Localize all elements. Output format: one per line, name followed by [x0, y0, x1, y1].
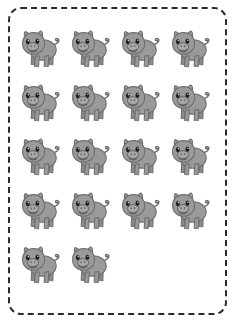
pig-eye-left	[76, 39, 80, 44]
pig-illustration	[18, 186, 62, 233]
pig-illustration	[68, 24, 112, 71]
worksheet-page: Eighteen gray cartoon pigs arranged in a…	[0, 0, 236, 323]
pig-nostril-right	[84, 99, 86, 101]
pig-item	[18, 240, 62, 287]
pig-nostril-left	[130, 45, 132, 47]
pig-grid	[18, 24, 218, 287]
pig-nostril-right	[184, 153, 186, 155]
pig-eye-right	[186, 93, 190, 98]
pig-nostril-left	[30, 99, 32, 101]
pig-item	[68, 186, 112, 233]
pig-eye-left	[76, 147, 80, 152]
pig-eye-right	[136, 93, 140, 98]
pig-row	[18, 186, 218, 233]
pig-illustration	[168, 132, 212, 179]
pig-nostril-left	[30, 207, 32, 209]
image-alt-text: Eighteen gray cartoon pigs arranged in a…	[0, 0, 1, 1]
pig-illustration	[118, 186, 162, 233]
pig-eye-left	[76, 201, 80, 206]
pig-nostril-right	[184, 99, 186, 101]
pig-item	[118, 132, 162, 179]
pig-row	[18, 78, 218, 125]
pig-illustration	[168, 186, 212, 233]
pig-eye-left	[26, 201, 30, 206]
pig-illustration	[68, 186, 112, 233]
pig-item	[68, 132, 112, 179]
pig-eye-right	[36, 255, 40, 260]
pig-row	[18, 240, 218, 287]
pig-nostril-left	[180, 207, 182, 209]
pig-eye-right	[86, 93, 90, 98]
pig-eye-right	[36, 39, 40, 44]
pig-nostril-left	[180, 45, 182, 47]
pig-eye-right	[36, 147, 40, 152]
pig-item	[68, 240, 112, 287]
pig-eye-right	[36, 201, 40, 206]
pig-eye-left	[26, 255, 30, 260]
pig-nostril-left	[130, 153, 132, 155]
pig-item	[168, 186, 212, 233]
pig-eye-right	[36, 93, 40, 98]
pig-eye-right	[86, 201, 90, 206]
pig-nostril-left	[30, 153, 32, 155]
pig-item	[18, 132, 62, 179]
pig-nostril-left	[180, 153, 182, 155]
pig-eye-right	[136, 147, 140, 152]
pig-eye-left	[126, 201, 130, 206]
pig-eye-right	[136, 201, 140, 206]
pig-eye-left	[26, 93, 30, 98]
pig-eye-right	[186, 147, 190, 152]
pig-item	[68, 78, 112, 125]
pig-illustration	[118, 78, 162, 125]
pig-nostril-left	[130, 207, 132, 209]
pig-nostril-right	[84, 153, 86, 155]
pig-nostril-left	[30, 45, 32, 47]
pig-item	[168, 132, 212, 179]
pig-eye-right	[136, 39, 140, 44]
pig-nostril-right	[34, 207, 36, 209]
pig-eye-right	[86, 147, 90, 152]
pig-nostril-right	[184, 207, 186, 209]
pig-nostril-right	[34, 261, 36, 263]
pig-nostril-right	[134, 153, 136, 155]
pig-nostril-right	[84, 45, 86, 47]
pig-eye-left	[26, 147, 30, 152]
pig-eye-left	[76, 255, 80, 260]
pig-illustration	[168, 78, 212, 125]
pig-nostril-right	[134, 45, 136, 47]
pig-item	[18, 186, 62, 233]
pig-nostril-right	[34, 45, 36, 47]
pig-item	[118, 78, 162, 125]
pig-illustration	[18, 24, 62, 71]
pig-illustration	[68, 78, 112, 125]
pig-item	[18, 78, 62, 125]
pig-item	[118, 186, 162, 233]
pig-illustration	[68, 132, 112, 179]
pig-nostril-left	[80, 207, 82, 209]
pig-nostril-right	[34, 153, 36, 155]
pig-nostril-left	[180, 99, 182, 101]
pig-row	[18, 132, 218, 179]
pig-eye-left	[126, 39, 130, 44]
pig-eye-left	[176, 39, 180, 44]
pig-nostril-right	[134, 207, 136, 209]
pig-eye-left	[176, 147, 180, 152]
pig-eye-left	[176, 93, 180, 98]
pig-nostril-right	[184, 45, 186, 47]
pig-nostril-left	[80, 153, 82, 155]
pig-illustration	[18, 78, 62, 125]
pig-illustration	[168, 24, 212, 71]
pig-eye-left	[126, 93, 130, 98]
pig-illustration	[118, 132, 162, 179]
pig-item	[168, 24, 212, 71]
pig-item	[68, 24, 112, 71]
pig-eye-right	[186, 39, 190, 44]
pig-nostril-right	[34, 99, 36, 101]
pig-item	[18, 24, 62, 71]
pig-nostril-left	[30, 261, 32, 263]
pig-illustration	[118, 24, 162, 71]
pig-illustration	[68, 240, 112, 287]
pig-eye-left	[176, 201, 180, 206]
pig-eye-left	[26, 39, 30, 44]
pig-eye-left	[126, 147, 130, 152]
